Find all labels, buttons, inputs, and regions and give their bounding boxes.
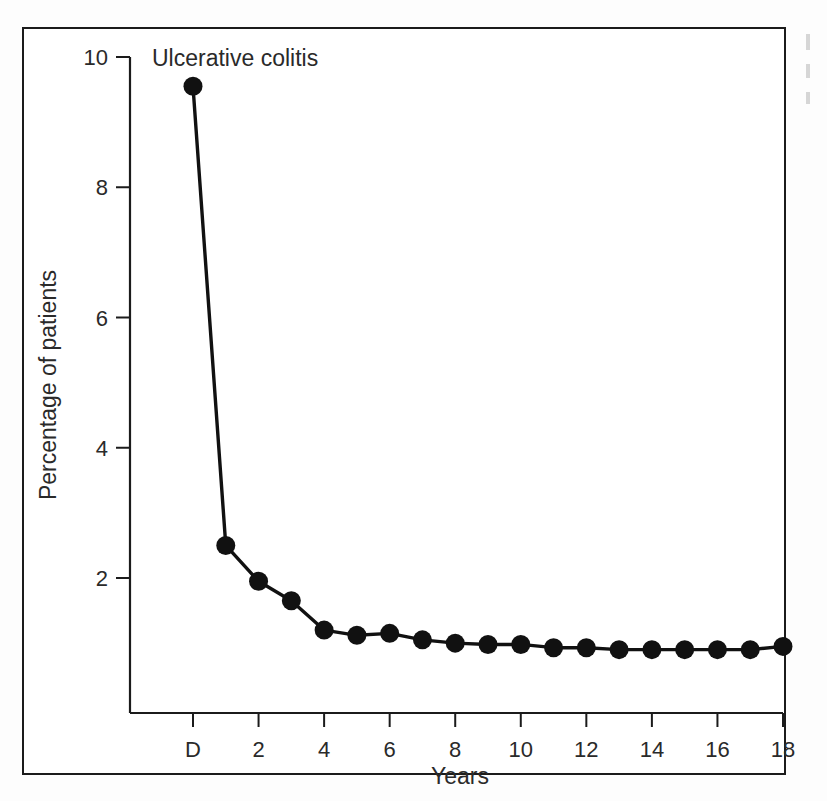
y-tick-label: 10	[84, 45, 108, 70]
data-point-marker	[249, 572, 268, 591]
data-point-marker	[479, 635, 498, 654]
data-point-marker	[610, 640, 629, 659]
x-tick-label: 2	[252, 737, 264, 762]
data-point-marker	[642, 640, 661, 659]
data-point-marker	[380, 624, 399, 643]
x-axis-title: Years	[431, 763, 489, 789]
data-point-marker	[315, 621, 334, 640]
y-axis-ticks	[116, 57, 130, 578]
y-axis-tick-labels: 246810	[84, 45, 108, 591]
y-tick-label: 4	[96, 436, 108, 461]
x-tick-label: 6	[384, 737, 396, 762]
data-point-marker	[184, 77, 203, 96]
data-point-marker	[774, 637, 793, 656]
data-point-marker	[282, 591, 301, 610]
data-point-marker	[741, 640, 760, 659]
x-tick-label: 10	[509, 737, 533, 762]
x-tick-label: 12	[574, 737, 598, 762]
x-tick-label: 18	[771, 737, 795, 762]
data-point-marker	[446, 634, 465, 653]
line-chart: 246810 D24681012141618 Ulcerative coliti…	[0, 0, 827, 801]
series-markers	[184, 77, 793, 659]
y-axis-title: Percentage of patients	[35, 270, 61, 500]
x-tick-label: 16	[705, 737, 729, 762]
data-point-marker	[544, 638, 563, 657]
x-tick-label: 14	[640, 737, 664, 762]
x-axis-tick-labels: D24681012141618	[185, 737, 795, 762]
data-point-marker	[511, 635, 530, 654]
panel-title: Ulcerative colitis	[152, 45, 318, 71]
x-axis-ticks	[193, 713, 783, 727]
x-tick-label: D	[185, 737, 201, 762]
data-point-marker	[413, 630, 432, 649]
figure-root: 246810 D24681012141618 Ulcerative coliti…	[0, 0, 827, 801]
x-tick-label: 8	[449, 737, 461, 762]
series-line-ulcerative-colitis	[193, 86, 783, 649]
data-point-marker	[675, 640, 694, 659]
x-tick-label: 4	[318, 737, 330, 762]
data-point-marker	[347, 626, 366, 645]
data-point-marker	[216, 536, 235, 555]
y-tick-label: 8	[96, 175, 108, 200]
data-point-marker	[708, 640, 727, 659]
y-tick-label: 2	[96, 566, 108, 591]
data-point-marker	[577, 638, 596, 657]
y-tick-label: 6	[96, 306, 108, 331]
